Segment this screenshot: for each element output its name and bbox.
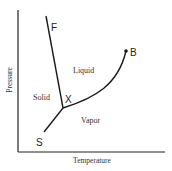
region-liquid: Liquid (73, 66, 94, 75)
phase-diagram: F B X S Liquid Solid Vapor Temperature P… (0, 0, 172, 171)
label-X: X (65, 94, 72, 105)
x-axis-label: Temperature (73, 156, 111, 165)
sublimation-curve (44, 108, 63, 132)
region-solid: Solid (33, 93, 50, 102)
vaporization-curve (63, 51, 126, 108)
y-axis-label: Pressure (5, 67, 14, 93)
label-F: F (51, 22, 57, 33)
critical-point-dot (124, 49, 128, 53)
region-vapor: Vapor (81, 116, 100, 125)
label-S: S (36, 137, 43, 148)
label-B: B (130, 47, 137, 58)
